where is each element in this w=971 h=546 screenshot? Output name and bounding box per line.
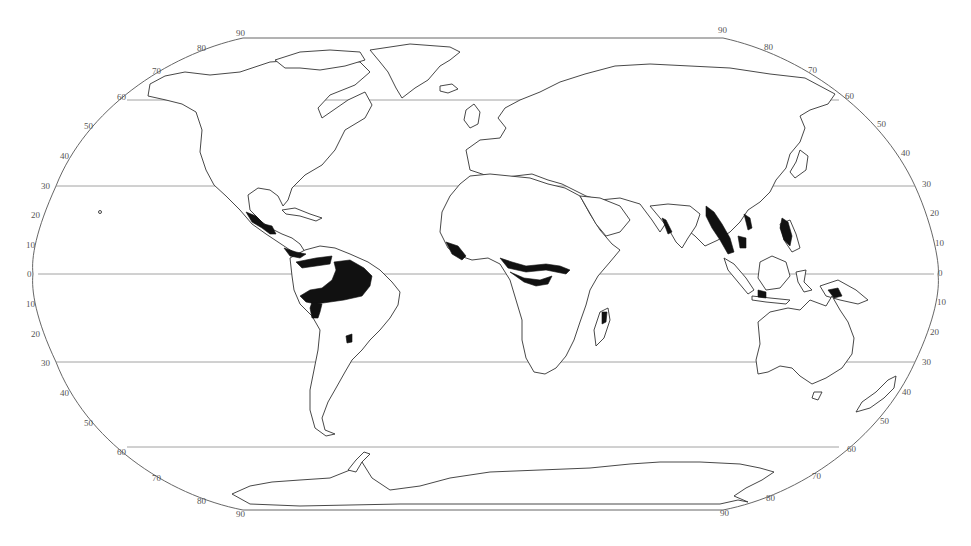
rainforest-java bbox=[758, 290, 766, 298]
lat-label: 50 bbox=[877, 119, 887, 129]
lat-label: 90 bbox=[236, 509, 246, 519]
iceland bbox=[440, 84, 458, 93]
lat-label: 80 bbox=[764, 42, 774, 52]
tasmania bbox=[812, 392, 822, 400]
lat-label: 90 bbox=[718, 25, 728, 35]
new-guinea bbox=[820, 280, 868, 304]
lat-label: 20 bbox=[930, 327, 940, 337]
lat-label: 30 bbox=[922, 357, 932, 367]
lat-label: 0 bbox=[938, 268, 943, 278]
borneo bbox=[758, 256, 790, 290]
lat-label: 10 bbox=[935, 238, 945, 248]
lat-label: 90 bbox=[236, 28, 246, 38]
lat-label: 70 bbox=[808, 65, 818, 75]
british-isles bbox=[464, 104, 480, 128]
lat-label: 60 bbox=[117, 447, 127, 457]
lat-label: 40 bbox=[60, 151, 70, 161]
lat-label: 40 bbox=[901, 148, 911, 158]
world-map: 90 80 70 60 50 40 30 20 10 0 10 20 30 40… bbox=[0, 0, 971, 546]
caribbean-islands bbox=[282, 208, 322, 221]
sumatra bbox=[724, 258, 754, 294]
lat-label: 10 bbox=[26, 299, 36, 309]
lat-label: 70 bbox=[812, 471, 822, 481]
lat-label: 20 bbox=[31, 329, 41, 339]
lat-label: 70 bbox=[152, 473, 162, 483]
lat-label: 30 bbox=[41, 358, 51, 368]
lat-label: 80 bbox=[197, 43, 207, 53]
lat-label: 20 bbox=[930, 208, 940, 218]
new-zealand bbox=[856, 376, 896, 412]
lat-label: 40 bbox=[60, 388, 70, 398]
lat-label: 50 bbox=[84, 121, 94, 131]
sulawesi bbox=[796, 270, 812, 292]
lat-label: 20 bbox=[31, 210, 41, 220]
lat-label: 30 bbox=[922, 179, 932, 189]
australia bbox=[756, 296, 854, 384]
rainforest-vietnam bbox=[744, 214, 752, 230]
hawaii bbox=[99, 211, 102, 214]
lat-label: 60 bbox=[847, 444, 857, 454]
lat-label: 60 bbox=[845, 91, 855, 101]
lat-label: 30 bbox=[41, 181, 51, 191]
lat-label: 60 bbox=[117, 92, 127, 102]
lat-label: 70 bbox=[152, 66, 162, 76]
rainforest-indochina bbox=[738, 236, 746, 248]
lat-label: 50 bbox=[880, 416, 890, 426]
lat-label: 40 bbox=[902, 387, 912, 397]
japan bbox=[790, 150, 808, 178]
antarctica bbox=[232, 462, 774, 506]
lat-label: 50 bbox=[84, 418, 94, 428]
rainforest-madagascar bbox=[602, 312, 607, 324]
continents bbox=[99, 44, 897, 506]
lat-label: 10 bbox=[26, 240, 36, 250]
lat-label: 0 bbox=[27, 269, 32, 279]
lat-label: 90 bbox=[720, 508, 730, 518]
lat-label: 80 bbox=[766, 493, 776, 503]
lat-label: 80 bbox=[197, 496, 207, 506]
lat-label: 10 bbox=[937, 297, 947, 307]
robinson-projection-map: 90 80 70 60 50 40 30 20 10 0 10 20 30 40… bbox=[0, 0, 971, 546]
